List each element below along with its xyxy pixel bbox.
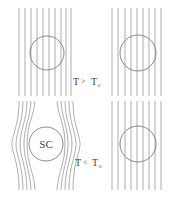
panel-top-right-field-lines [112,8,161,96]
label-above-t: T [73,76,79,87]
sc-label: SC [39,138,52,150]
panel-bottom-right-field-lines [112,101,161,190]
label-above-tc-sub: c [98,82,101,88]
label-above-tc: T > T c [73,76,101,88]
label-above-op: > [81,77,86,86]
sample-circle-top-left [30,36,64,70]
label-below-tc: T [92,157,98,168]
meissner-diagram: T > T c SC T < T c [0,0,171,199]
label-above-tc: T [91,76,97,87]
label-below-op: < [83,158,88,167]
label-below-tc-sub: c [99,163,102,169]
label-below-tc: T < T c [75,157,102,169]
panel-top-left-field-lines [19,8,71,96]
label-below-t: T [75,157,81,168]
